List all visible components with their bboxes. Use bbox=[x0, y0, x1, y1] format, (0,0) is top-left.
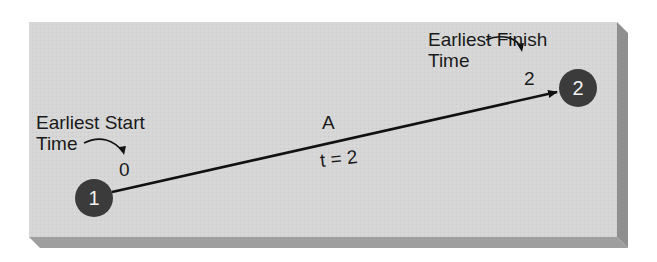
network-diagram: 1 2 Earliest Start Time 0 Earliest Finis… bbox=[0, 0, 657, 262]
earliest-finish-value: 2 bbox=[524, 69, 535, 89]
node-2: 2 bbox=[559, 69, 597, 107]
panel-bottom-edge bbox=[29, 237, 628, 248]
earliest-start-label-line1: Earliest Start bbox=[36, 113, 145, 133]
svg-text:2: 2 bbox=[572, 77, 583, 99]
earliest-start-value: 0 bbox=[119, 160, 130, 180]
earliest-finish-label-line2: Time bbox=[428, 51, 470, 71]
earliest-start-label-line2: Time bbox=[36, 134, 78, 154]
panel-right-edge bbox=[617, 22, 628, 248]
activity-name-label: A bbox=[322, 113, 335, 133]
node-1: 1 bbox=[75, 179, 113, 217]
panel-background bbox=[29, 22, 628, 248]
activity-duration-label: t = 2 bbox=[319, 147, 358, 171]
earliest-finish-label-line1: Earliest Finish bbox=[428, 30, 547, 50]
svg-text:1: 1 bbox=[88, 187, 99, 209]
